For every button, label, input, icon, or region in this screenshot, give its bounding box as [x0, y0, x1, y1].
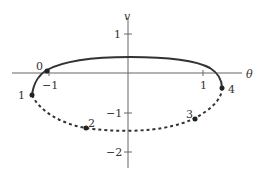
point-label-2: 2 — [88, 117, 95, 130]
theta-tick-label-neg1: −1 — [42, 79, 58, 92]
theta-tick-label-1: 1 — [200, 79, 207, 92]
phase-diagram: v θ 1 −1 −2 −1 1 0 1 2 3 4 — [0, 0, 268, 171]
v-tick-label-neg1: −1 — [106, 107, 122, 120]
theta-axis-label: θ — [246, 68, 253, 81]
lower-dashed-curve — [32, 88, 222, 131]
point-0 — [45, 69, 50, 74]
point-label-1: 1 — [18, 89, 25, 102]
point-1 — [30, 93, 35, 98]
point-label-0: 0 — [36, 60, 43, 73]
v-tick-label-1: 1 — [114, 28, 121, 41]
point-3 — [193, 117, 198, 122]
v-axis-label: v — [124, 10, 131, 23]
point-4 — [220, 86, 225, 91]
point-label-3: 3 — [186, 108, 193, 121]
v-tick-label-neg2: −2 — [106, 146, 122, 159]
upper-solid-curve — [32, 57, 222, 95]
point-label-4: 4 — [228, 83, 235, 96]
